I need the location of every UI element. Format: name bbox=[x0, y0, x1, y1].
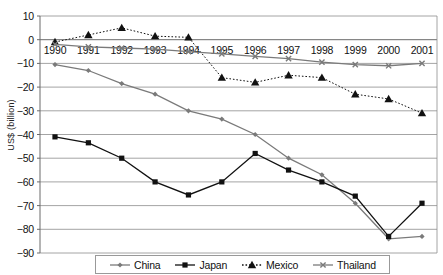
data-point-triangle bbox=[218, 73, 226, 80]
data-point-square bbox=[186, 192, 191, 197]
legend-label: China bbox=[134, 259, 160, 271]
data-point-square bbox=[183, 262, 188, 267]
data-point-square bbox=[52, 134, 57, 139]
data-point-square bbox=[319, 179, 324, 184]
legend-label: Japan bbox=[199, 259, 227, 271]
legend-item-mexico[interactable]: Mexico bbox=[234, 259, 305, 271]
legend-swatch-triangle-icon bbox=[241, 260, 263, 270]
data-point-square bbox=[353, 194, 358, 199]
data-point-diamond bbox=[419, 234, 424, 239]
chart-root: US$ (billion) 100−10−20−30−40−50−60−70−8… bbox=[0, 0, 443, 275]
data-point-triangle bbox=[318, 73, 326, 80]
data-point-triangle bbox=[151, 32, 159, 39]
data-point-square bbox=[219, 179, 224, 184]
legend-swatch-square-icon bbox=[174, 260, 196, 270]
chart-legend: ChinaJapanMexicoThailand bbox=[95, 255, 390, 274]
data-point-diamond bbox=[86, 68, 91, 73]
data-point-diamond bbox=[152, 92, 157, 97]
data-point-triangle bbox=[118, 24, 126, 31]
series-line-thailand bbox=[55, 44, 422, 65]
series-line-mexico bbox=[55, 28, 422, 113]
legend-swatch-diamond-icon bbox=[109, 260, 131, 270]
data-point-diamond bbox=[119, 81, 124, 86]
plot-area bbox=[0, 0, 443, 275]
data-point-triangle bbox=[84, 31, 92, 38]
legend-label: Mexico bbox=[266, 259, 298, 271]
data-point-square bbox=[253, 151, 258, 156]
data-point-triangle bbox=[284, 71, 292, 78]
data-point-triangle bbox=[351, 90, 359, 97]
series-line-china bbox=[55, 65, 422, 239]
data-point-triangle bbox=[418, 109, 426, 116]
data-point-diamond bbox=[186, 108, 191, 113]
data-point-square bbox=[86, 140, 91, 145]
legend-item-thailand[interactable]: Thailand bbox=[305, 259, 383, 271]
data-point-square bbox=[419, 201, 424, 206]
legend-item-japan[interactable]: Japan bbox=[167, 259, 234, 271]
legend-swatch-cross-icon bbox=[312, 260, 334, 270]
series-line-japan bbox=[55, 137, 422, 237]
legend-item-china[interactable]: China bbox=[102, 259, 167, 271]
data-point-diamond bbox=[117, 262, 122, 267]
data-point-diamond bbox=[219, 116, 224, 121]
data-point-square bbox=[152, 179, 157, 184]
data-point-square bbox=[286, 167, 291, 172]
data-point-square bbox=[386, 234, 391, 239]
data-point-diamond bbox=[52, 62, 57, 67]
data-point-square bbox=[119, 156, 124, 161]
legend-label: Thailand bbox=[337, 259, 376, 271]
